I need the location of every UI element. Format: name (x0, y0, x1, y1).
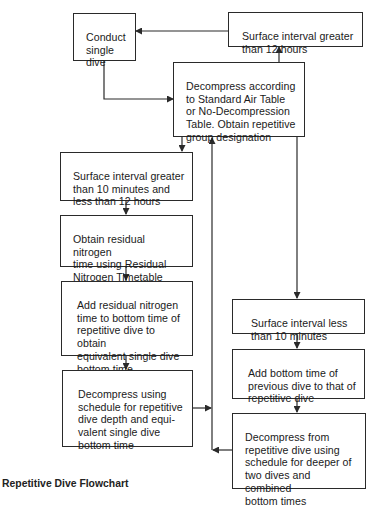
node-decompress-repetitive-schedule: Decompress using schedule for repetitive… (62, 370, 193, 447)
node-label: Add bottom time of previous dive to that… (248, 367, 356, 405)
node-surface-interval-10m-12h: Surface interval greater than 10 minutes… (60, 152, 193, 201)
node-add-bottom-time: Add bottom time of previous dive to that… (232, 349, 365, 399)
node-add-residual-nitrogen: Add residual nitrogen time to bottom tim… (61, 281, 193, 356)
node-label: Obtain residual nitrogen time using Resi… (73, 233, 166, 283)
node-decompress-standard-table: Decompress according to Standard Air Tab… (173, 62, 305, 137)
edge-conduct-to-decompress (104, 60, 173, 99)
node-conduct-single-dive: Conduct single dive (73, 13, 136, 61)
node-label: Decompress using schedule for repetitive… (78, 388, 183, 451)
node-surface-interval-gt-12h: Surface interval greater than 12 hours (228, 12, 363, 47)
node-decompress-deeper-dive: Decompress from repetitive dive using sc… (232, 413, 366, 489)
flowchart: Conduct single dive Surface interval gre… (0, 0, 373, 508)
figure-caption: Repetitive Dive Flowchart (2, 478, 128, 489)
node-surface-interval-lt-10m: Surface interval less than 10 minutes (232, 299, 365, 334)
node-obtain-residual-nitrogen: Obtain residual nitrogen time using Resi… (60, 215, 193, 267)
node-label: Decompress according to Standard Air Tab… (186, 80, 296, 143)
